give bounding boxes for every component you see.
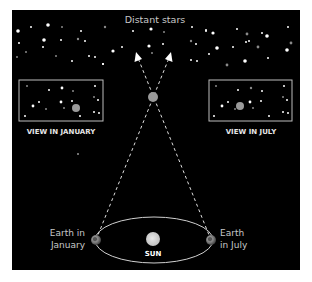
star — [252, 107, 254, 109]
star — [48, 89, 50, 91]
star — [232, 46, 234, 48]
view-january-near-star — [72, 104, 80, 112]
star — [60, 39, 62, 41]
star — [250, 87, 252, 89]
star — [213, 115, 215, 117]
star — [215, 85, 217, 87]
star — [84, 40, 86, 42]
star — [94, 85, 96, 87]
star — [93, 96, 95, 98]
distant-stars-title: Distant stars — [125, 14, 186, 25]
star — [77, 153, 79, 155]
star — [261, 90, 263, 92]
star — [221, 105, 224, 108]
star — [234, 108, 236, 110]
star — [16, 56, 18, 58]
star — [261, 32, 263, 34]
star — [72, 90, 74, 92]
view-july-near-star — [236, 102, 244, 110]
star — [45, 108, 47, 110]
star — [208, 53, 210, 55]
star — [151, 52, 153, 54]
star — [93, 111, 95, 113]
view-july-label: VIEW IN JULY — [226, 128, 278, 136]
star — [268, 115, 270, 117]
star — [104, 26, 106, 28]
earth-january-label-line2: January — [50, 240, 86, 250]
star — [77, 38, 79, 40]
star — [265, 34, 269, 38]
star — [42, 46, 44, 48]
star — [24, 115, 26, 117]
star — [46, 23, 50, 27]
star — [260, 100, 262, 102]
star — [248, 40, 250, 42]
star — [245, 41, 247, 43]
star — [16, 29, 20, 33]
star — [30, 26, 32, 28]
star — [38, 101, 40, 103]
sun — [146, 232, 160, 246]
star — [287, 26, 289, 28]
star — [236, 28, 238, 30]
earth-january — [91, 235, 101, 245]
earth-july — [206, 235, 216, 245]
star — [249, 101, 252, 104]
star — [97, 99, 99, 101]
view-january-label: VIEW IN JANUARY — [27, 128, 97, 136]
star — [55, 55, 57, 57]
nearby-star — [148, 92, 158, 102]
star — [215, 46, 219, 50]
star — [163, 31, 165, 33]
star — [190, 59, 192, 61]
star — [71, 60, 73, 62]
star — [283, 85, 285, 87]
star — [121, 46, 123, 48]
star — [237, 89, 239, 91]
earth-july-label-line2: in July — [220, 240, 248, 250]
star — [79, 115, 81, 117]
star — [205, 29, 207, 31]
star — [290, 42, 293, 45]
star — [286, 99, 288, 101]
star — [191, 26, 193, 28]
star — [149, 27, 152, 30]
parallax-diagram: Distant stars VIEW IN JANUARY VIEW IN JU… — [0, 0, 312, 282]
earth-january-label-line1: Earth in — [50, 228, 85, 238]
star — [285, 48, 289, 52]
star — [282, 111, 284, 113]
star — [61, 87, 64, 90]
star — [257, 46, 260, 49]
star — [162, 43, 164, 45]
star — [18, 42, 20, 44]
star — [195, 43, 197, 45]
star — [211, 31, 214, 34]
star — [42, 38, 46, 42]
star — [32, 105, 35, 108]
star — [98, 112, 100, 114]
star — [25, 51, 27, 53]
star — [226, 64, 229, 67]
star — [111, 49, 114, 52]
star — [80, 30, 82, 32]
star — [147, 44, 150, 47]
star — [282, 96, 284, 98]
star — [196, 60, 198, 62]
star — [243, 59, 247, 63]
star — [102, 63, 104, 65]
earth-july-label-line1: Earth — [220, 228, 244, 238]
star — [26, 85, 28, 87]
star — [132, 30, 134, 32]
star — [63, 107, 65, 109]
star — [60, 101, 63, 104]
star — [287, 112, 289, 114]
star — [190, 40, 192, 42]
star — [267, 57, 269, 59]
star — [246, 33, 249, 36]
star — [61, 26, 63, 28]
sun-label: SUN — [145, 250, 162, 258]
star — [71, 100, 73, 102]
star — [88, 55, 90, 57]
star — [94, 56, 96, 58]
star — [227, 101, 229, 103]
